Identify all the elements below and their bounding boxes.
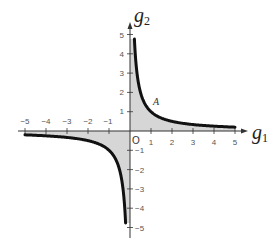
- y-tick-label: −1: [135, 146, 145, 155]
- y-tick-label: 2: [120, 88, 125, 97]
- hatched-region-positive: [130, 30, 234, 131]
- y-tick-label: 3: [120, 69, 125, 78]
- x-tick-label: 1: [149, 138, 154, 147]
- x-tick-label: −2: [83, 117, 93, 126]
- y-axis-arrow-icon: [128, 22, 133, 29]
- x-tick-label: 2: [170, 138, 175, 147]
- x-axis-title: g1: [252, 121, 268, 145]
- y-tick-label: −5: [135, 224, 145, 233]
- point-a-label: A: [152, 96, 160, 107]
- x-tick-label: 4: [212, 138, 217, 147]
- hyperbola-chart: −5 −4 −3 −2 −1 1 2 3 4 5 5 4 3 2 1 −1 −2…: [0, 0, 280, 251]
- x-tick-label: 5: [233, 138, 238, 147]
- y-tick-label: −3: [135, 185, 145, 194]
- x-tick-label: 3: [191, 138, 196, 147]
- y-tick-label: 5: [120, 31, 125, 40]
- y-tick-label: 1: [120, 107, 125, 116]
- x-tick-label: −3: [62, 117, 72, 126]
- x-tick-label: −4: [41, 117, 51, 126]
- y-tick-label: −4: [135, 204, 145, 213]
- curve-positive-branch: [134, 39, 235, 127]
- hatched-region-negative: [25, 131, 129, 235]
- x-tick-label: −5: [20, 117, 30, 126]
- y-axis-title: g2: [134, 4, 150, 28]
- x-axis-arrow-icon: [241, 129, 248, 134]
- origin-label: O: [132, 135, 140, 146]
- x-tick-label: −1: [103, 117, 113, 126]
- y-tick-label: −2: [135, 166, 145, 175]
- curve-negative-branch: [25, 135, 126, 223]
- y-tick-label: 4: [120, 50, 125, 59]
